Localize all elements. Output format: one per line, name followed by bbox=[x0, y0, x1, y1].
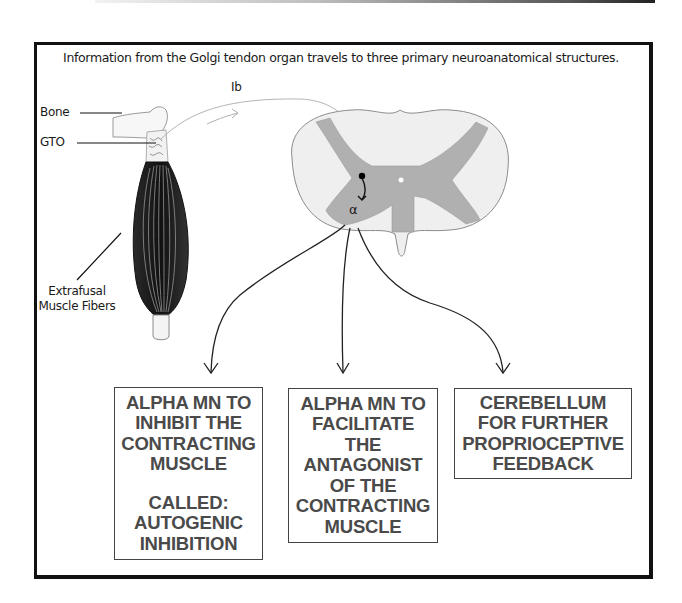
box-text-line: PROPRIOCEPTIVE bbox=[462, 434, 624, 455]
box-text-line: ALPHA MN TO bbox=[126, 393, 251, 414]
extrafusal-label-line1: Extrafusal bbox=[32, 284, 122, 299]
box-text-line: CONTRACTING bbox=[296, 496, 430, 517]
box-text-line: CEREBELLUM bbox=[480, 393, 606, 414]
lower-tendon bbox=[153, 315, 169, 340]
box-text-line: ALPHA MN TO bbox=[300, 394, 425, 415]
box-text-line: MUSCLE bbox=[150, 454, 227, 475]
alpha-motor-neuron-label: α bbox=[349, 202, 357, 217]
box-text-line: CALLED: bbox=[149, 493, 229, 514]
fiber-leader-line bbox=[77, 233, 121, 280]
arrow-to-autogenic-inhibition bbox=[211, 225, 345, 372]
target-box-autogenic-inhibition: ALPHA MN TO INHIBIT THE CONTRACTING MUSC… bbox=[114, 387, 263, 560]
extrafusal-label-line2: Muscle Fibers bbox=[32, 299, 122, 314]
box-text-line: OF THE bbox=[330, 476, 397, 497]
arrow-to-facilitate-antagonist bbox=[342, 228, 350, 372]
spinal-cord-cross-section bbox=[292, 110, 509, 256]
box-text-line: THE bbox=[345, 435, 381, 456]
extrafusal-label: Extrafusal Muscle Fibers bbox=[32, 284, 122, 314]
central-canal bbox=[399, 178, 404, 183]
box-text-line: INHIBITION bbox=[140, 534, 238, 555]
muscle-belly bbox=[133, 162, 188, 315]
arrow-to-cerebellum bbox=[358, 228, 503, 372]
afferent-direction-arrow bbox=[207, 109, 238, 124]
box-text-line: ANTAGONIST bbox=[304, 455, 423, 476]
gto-label: GTO bbox=[40, 135, 65, 149]
ib-label: Ib bbox=[231, 80, 242, 94]
box-text-line: CONTRACTING bbox=[121, 434, 255, 455]
box-text-line: INHIBIT THE bbox=[135, 413, 242, 434]
bone-label: Bone bbox=[40, 105, 69, 119]
target-box-facilitate-antagonist: ALPHA MN TO FACILITATE THE ANTAGONIST OF… bbox=[288, 388, 438, 543]
box-text-line: MUSCLE bbox=[325, 517, 402, 538]
box-text-line: AUTOGENIC bbox=[134, 513, 243, 534]
box-text-line: FEEDBACK bbox=[492, 454, 593, 475]
box-text-line: FOR FURTHER bbox=[478, 413, 608, 434]
target-box-cerebellum: CEREBELLUM FOR FURTHER PROPRIOCEPTIVE FE… bbox=[454, 388, 632, 479]
box-text-line: FACILITATE bbox=[312, 414, 414, 435]
